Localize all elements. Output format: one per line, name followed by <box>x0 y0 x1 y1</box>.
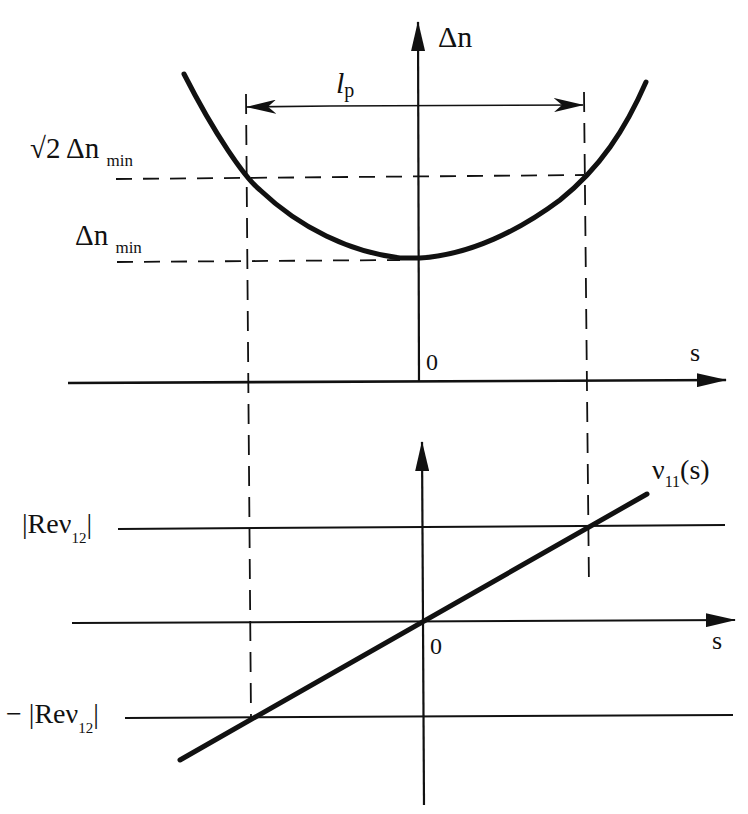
lower-plot <box>72 442 735 805</box>
rev12-lower-suffix: | <box>93 698 99 729</box>
sqrt2-dn-min-label: √2 Δn min <box>30 134 133 169</box>
upper-y-axis-label: Δn <box>438 22 472 52</box>
upper-s-text: s <box>690 338 700 367</box>
lp-label-sub: p <box>344 79 354 101</box>
v11-label-sub: 11 <box>665 473 680 490</box>
rev12-lower-sub: 12 <box>78 720 93 736</box>
lp-dimension-arrow-left <box>247 106 330 107</box>
lower-x-axis-label: s <box>712 628 722 654</box>
rev12-upper-prefix: |Reν <box>22 508 71 539</box>
lower-s-text: s <box>712 626 722 655</box>
v11-label-main: ν <box>652 454 665 485</box>
upper-x-axis <box>68 380 726 383</box>
sqrt2-dn-sub: min <box>106 151 132 170</box>
rev12-lower-prefix: − |Reν <box>6 698 78 729</box>
lower-x-axis <box>72 620 735 623</box>
dn-parabola-curve <box>184 74 646 258</box>
rev12-lower-level-line <box>125 715 733 718</box>
upper-plot <box>68 22 726 718</box>
right-dashed-vertical <box>584 92 589 588</box>
sqrt2-dn-text: √2 Δn <box>30 132 99 164</box>
rev12-upper-label: |Reν12| <box>22 510 92 546</box>
sqrt2-dn-min-dashed-line <box>116 175 584 179</box>
rev12-upper-sub: 12 <box>71 530 86 546</box>
diagram-canvas <box>0 0 748 814</box>
dn-min-dashed-line <box>117 260 400 262</box>
rev12-lower-label: − |Reν12| <box>6 700 99 736</box>
upper-origin-text: 0 <box>426 349 438 375</box>
left-dashed-vertical <box>246 94 251 718</box>
upper-origin-label: 0 <box>426 350 438 374</box>
dn-label-text: Δn <box>438 20 472 53</box>
dn-min-label: Δn min <box>75 221 142 256</box>
lp-dimension-arrow <box>330 105 583 106</box>
dn-min-text: Δn <box>75 219 108 251</box>
lower-origin-text: 0 <box>430 633 442 659</box>
upper-x-axis-label: s <box>690 340 700 366</box>
rev12-upper-suffix: | <box>86 508 92 539</box>
lower-origin-label: 0 <box>430 634 442 658</box>
dn-min-sub: min <box>115 238 141 257</box>
lp-label: lp <box>336 68 354 100</box>
v11-label-arg: (s) <box>680 454 710 485</box>
v11-curve-label: ν11(s) <box>652 456 710 490</box>
upper-y-axis <box>418 22 419 381</box>
